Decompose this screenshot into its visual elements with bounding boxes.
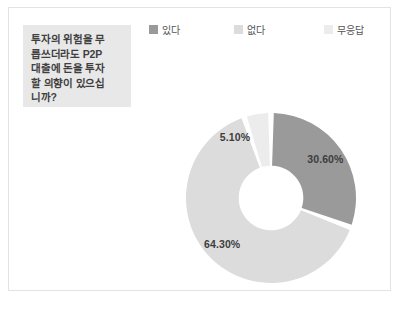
donut-chart-svg: 30.60%64.30%5.10% bbox=[177, 108, 369, 288]
legend-swatch-icon bbox=[324, 25, 333, 34]
donut-slice-label: 5.10% bbox=[220, 131, 251, 143]
donut-slice[interactable] bbox=[272, 113, 356, 225]
question-box: 투자의 위험을 무 릅쓰더라도 P2P 대출에 돈을 투자 할 의향이 있으십 … bbox=[23, 25, 131, 107]
legend-item-label: 있다 bbox=[162, 22, 180, 37]
legend-swatch-icon bbox=[234, 25, 243, 34]
chart-legend: 있다 없다 무응답 bbox=[149, 21, 387, 37]
legend-item-label: 무응답 bbox=[337, 22, 364, 37]
donut-chart: 30.60%64.30%5.10% bbox=[177, 108, 369, 288]
question-text: 투자의 위험을 무 릅쓰더라도 P2P 대출에 돈을 투자 할 의향이 있으십 … bbox=[31, 32, 124, 105]
legend-item-no[interactable]: 없다 bbox=[234, 21, 265, 37]
legend-swatch-icon bbox=[149, 25, 158, 34]
chart-card: 투자의 위험을 무 릅쓰더라도 P2P 대출에 돈을 투자 할 의향이 있으십 … bbox=[8, 7, 391, 291]
legend-item-yes[interactable]: 있다 bbox=[149, 21, 180, 37]
donut-slice-label: 30.60% bbox=[307, 153, 344, 165]
legend-item-label: 없다 bbox=[247, 22, 265, 37]
legend-item-no-response[interactable]: 무응답 bbox=[324, 21, 364, 37]
donut-slices bbox=[186, 113, 356, 283]
donut-slice-label: 64.30% bbox=[204, 238, 241, 250]
